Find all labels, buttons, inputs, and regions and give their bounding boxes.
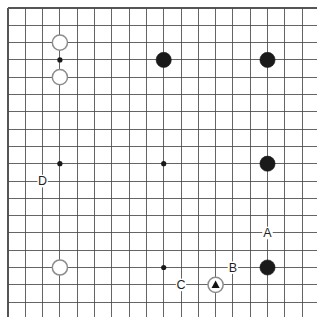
go-board[interactable]: ABCD — [0, 0, 317, 317]
white-stone[interactable] — [52, 70, 67, 85]
point-label-A: A — [263, 226, 272, 240]
white-stone[interactable] — [52, 260, 67, 275]
star-point — [57, 161, 62, 166]
black-stone[interactable] — [260, 156, 275, 171]
black-stone[interactable] — [260, 260, 275, 275]
stone-white[interactable] — [52, 70, 67, 85]
go-board-canvas[interactable]: ABCD — [0, 0, 317, 317]
stone-white[interactable] — [52, 35, 67, 50]
star-point — [161, 161, 166, 166]
stone-white[interactable] — [52, 260, 67, 275]
stone-black[interactable] — [260, 260, 275, 275]
black-stone[interactable] — [156, 52, 171, 67]
point-label-B: B — [229, 261, 237, 275]
black-stone[interactable] — [260, 52, 275, 67]
star-point — [161, 265, 166, 270]
stone-white[interactable] — [208, 277, 223, 292]
point-label-D: D — [38, 174, 47, 188]
star-point — [57, 57, 62, 62]
stone-black[interactable] — [260, 156, 275, 171]
point-label-C: C — [176, 278, 185, 292]
stone-black[interactable] — [260, 52, 275, 67]
white-stone[interactable] — [52, 35, 67, 50]
stone-black[interactable] — [156, 52, 171, 67]
figure-caption — [0, 319, 317, 335]
go-diagram-figure: ABCD — [0, 0, 317, 335]
